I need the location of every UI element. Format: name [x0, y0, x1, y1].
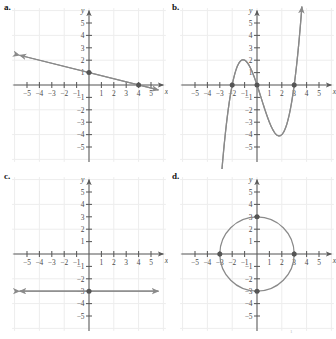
y-tick-label: −4: [245, 299, 253, 308]
x-tick-label: −5: [23, 258, 31, 267]
coordinate-plane-b: −5−4−3−2−112345−5−4−3−2−112345xy: [168, 0, 336, 169]
data-point: [292, 83, 297, 88]
y-tick-label: 4: [81, 31, 85, 40]
panel-d: d. −5−4−3−2−112345−5−4−3−2−112345xy: [168, 169, 336, 338]
x-tick-label: −2: [228, 258, 236, 267]
y-axis-label: y: [248, 175, 253, 184]
data-point: [217, 252, 222, 257]
y-tick-label: 2: [249, 56, 253, 65]
data-point: [255, 289, 260, 294]
y-tick-label: 5: [249, 188, 253, 197]
y-tick-label: 1: [81, 237, 85, 246]
y-tick-label: −5: [77, 312, 85, 321]
y-tick-label: −3: [77, 118, 85, 127]
x-tick-label: −5: [191, 89, 199, 98]
coordinate-plane-c: −5−4−3−2−112345−5−4−3−2−112345xy: [0, 169, 168, 338]
x-tick-label: −4: [203, 89, 211, 98]
y-tick-label: −1: [245, 262, 253, 271]
panel-c-plot: −5−4−3−2−112345−5−4−3−2−112345xy: [0, 169, 168, 338]
y-tick-label: −1: [245, 93, 253, 102]
y-tick-label: −2: [245, 106, 253, 115]
y-tick-label: 3: [81, 213, 85, 222]
y-tick-label: 2: [81, 56, 85, 65]
data-point: [255, 214, 260, 219]
data-point: [255, 83, 260, 88]
axes: [13, 180, 163, 331]
y-tick-label: 3: [249, 44, 253, 53]
y-tick-label: −5: [77, 143, 85, 152]
panel-b-plot: −5−4−3−2−112345−5−4−3−2−112345xy: [168, 0, 336, 169]
y-axis-label: y: [80, 6, 85, 15]
x-axis-label: x: [332, 256, 336, 265]
coordinate-plane-a: −5−4−3−2−112345−5−4−3−2−112345xy: [0, 0, 168, 169]
y-tick-label: 5: [81, 188, 85, 197]
x-tick-label: 3: [124, 258, 128, 267]
axes: [13, 11, 163, 162]
x-tick-label: 5: [149, 258, 153, 267]
x-tick-label: −3: [216, 89, 224, 98]
x-tick-label: 4: [137, 258, 141, 267]
y-tick-label: 1: [249, 237, 253, 246]
x-tick-label: −2: [60, 89, 68, 98]
y-axis-label: y: [80, 175, 85, 184]
x-tick-label: 4: [305, 258, 309, 267]
x-tick-label: 5: [317, 258, 321, 267]
y-tick-label: 5: [249, 19, 253, 28]
y-tick-label: 4: [249, 200, 253, 209]
x-tick-label: 2: [280, 89, 284, 98]
x-tick-label: −5: [191, 258, 199, 267]
y-tick-label: −1: [77, 93, 85, 102]
footnote-mark: 1: [290, 329, 293, 334]
y-tick-label: 5: [81, 19, 85, 28]
panel-a-plot: −5−4−3−2−112345−5−4−3−2−112345xy: [0, 0, 168, 169]
x-tick-label: −4: [35, 258, 43, 267]
data-point: [230, 83, 235, 88]
x-tick-label: 2: [280, 258, 284, 267]
y-tick-label: −1: [77, 262, 85, 271]
x-axis-label: x: [332, 87, 336, 96]
y-tick-label: 2: [249, 225, 253, 234]
x-tick-label: 1: [100, 89, 104, 98]
x-tick-label: 1: [268, 89, 272, 98]
y-tick-label: 1: [81, 68, 85, 77]
y-tick-label: −5: [245, 143, 253, 152]
y-tick-label: −3: [245, 118, 253, 127]
x-tick-label: 1: [268, 258, 272, 267]
x-tick-label: 2: [112, 89, 116, 98]
y-axis-label: y: [248, 6, 253, 15]
x-tick-label: −4: [35, 89, 43, 98]
x-tick-label: −2: [60, 258, 68, 267]
x-tick-label: 4: [305, 89, 309, 98]
y-tick-label: 4: [81, 200, 85, 209]
y-tick-label: −2: [245, 275, 253, 284]
y-tick-label: −5: [245, 312, 253, 321]
x-tick-label: 1: [100, 258, 104, 267]
data-point: [292, 252, 297, 257]
coordinate-plane-d: −5−4−3−2−112345−5−4−3−2−112345xy: [168, 169, 336, 338]
y-tick-label: 3: [81, 44, 85, 53]
x-tick-label: −3: [48, 258, 56, 267]
y-tick-label: −2: [77, 275, 85, 284]
panel-d-plot: −5−4−3−2−112345−5−4−3−2−112345xy: [168, 169, 336, 338]
x-tick-label: 5: [149, 89, 153, 98]
x-tick-label: −3: [48, 89, 56, 98]
y-tick-label: 4: [249, 31, 253, 40]
y-tick-label: −4: [77, 130, 85, 139]
panel-c: c. −5−4−3−2−112345−5−4−3−2−112345xy: [0, 169, 168, 338]
panel-b: b. −5−4−3−2−112345−5−4−3−2−112345xy: [168, 0, 336, 169]
y-tick-label: −2: [77, 106, 85, 115]
x-tick-label: 2: [112, 258, 116, 267]
data-point: [87, 70, 92, 75]
x-tick-label: −4: [203, 258, 211, 267]
x-tick-label: 5: [317, 89, 321, 98]
four-panel-graph-figure: a. −5−4−3−2−112345−5−4−3−2−112345xy b. −…: [0, 0, 336, 339]
axes: [181, 180, 331, 331]
y-tick-label: −4: [77, 299, 85, 308]
y-tick-label: 2: [81, 225, 85, 234]
x-tick-label: −5: [23, 89, 31, 98]
y-tick-label: −4: [245, 130, 253, 139]
data-point: [136, 83, 141, 88]
panel-a: a. −5−4−3−2−112345−5−4−3−2−112345xy: [0, 0, 168, 169]
data-point: [87, 289, 92, 294]
x-tick-label: 4: [137, 89, 141, 98]
